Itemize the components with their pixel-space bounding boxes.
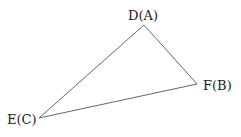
triangle-diagram: D(A) F(B) E(C) <box>0 0 241 137</box>
vertex-label-d: D(A) <box>128 8 158 23</box>
vertex-label-f: F(B) <box>203 78 232 93</box>
vertex-label-e: E(C) <box>7 112 37 127</box>
triangle-def <box>39 25 197 118</box>
